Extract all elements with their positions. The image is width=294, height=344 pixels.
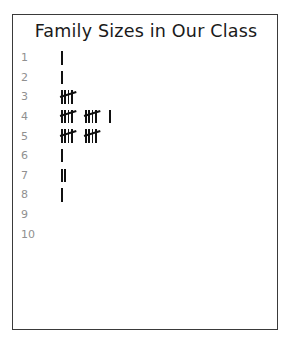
tally-marks-cell — [43, 146, 279, 166]
tally-marks-cell — [43, 48, 279, 68]
row-number-label: 10 — [13, 229, 43, 240]
row-number-label: 4 — [13, 111, 43, 122]
table-row: 3 — [13, 87, 279, 107]
row-number-label: 6 — [13, 150, 43, 161]
tally-stroke — [64, 129, 66, 143]
tally-marks-cell — [43, 68, 279, 88]
row-number-label: 8 — [13, 189, 43, 200]
tally-stroke — [85, 110, 87, 124]
tally-marks-cell — [43, 126, 279, 146]
tally-stroke — [61, 188, 63, 202]
tally-marks-cell — [43, 224, 279, 244]
table-row: 6 — [13, 146, 279, 166]
tally-stroke — [64, 90, 66, 104]
table-row: 10 — [13, 224, 279, 244]
tally-stroke — [61, 71, 63, 85]
row-number-label: 9 — [13, 209, 43, 220]
tally-stroke — [88, 110, 90, 124]
tally-marks-cell — [43, 166, 279, 186]
tally-stroke — [61, 51, 63, 65]
table-row: 8 — [13, 185, 279, 205]
page-title: Family Sizes in Our Class — [13, 21, 279, 41]
tally-stroke — [64, 110, 66, 124]
row-number-label: 5 — [13, 131, 43, 142]
table-row: 2 — [13, 68, 279, 88]
tally-rows-container: 12345678910 — [13, 48, 279, 244]
table-row: 5 — [13, 126, 279, 146]
tally-stroke — [88, 129, 90, 143]
row-number-label: 2 — [13, 72, 43, 83]
tally-stroke — [61, 149, 63, 163]
row-number-label: 1 — [13, 52, 43, 63]
table-row: 9 — [13, 205, 279, 225]
row-number-label: 3 — [13, 91, 43, 102]
tally-stroke — [64, 169, 66, 183]
table-row: 1 — [13, 48, 279, 68]
tally-chart-worksheet: Family Sizes in Our Class 12345678910 — [0, 0, 294, 344]
worksheet-frame: Family Sizes in Our Class 12345678910 — [12, 14, 278, 330]
tally-stroke — [61, 110, 63, 124]
row-number-label: 7 — [13, 170, 43, 181]
tally-marks-cell — [43, 107, 279, 127]
table-row: 7 — [13, 166, 279, 186]
tally-stroke — [109, 110, 111, 124]
tally-stroke — [61, 169, 63, 183]
tally-marks-cell — [43, 185, 279, 205]
tally-marks-cell — [43, 205, 279, 225]
table-row: 4 — [13, 107, 279, 127]
tally-marks-cell — [43, 87, 279, 107]
